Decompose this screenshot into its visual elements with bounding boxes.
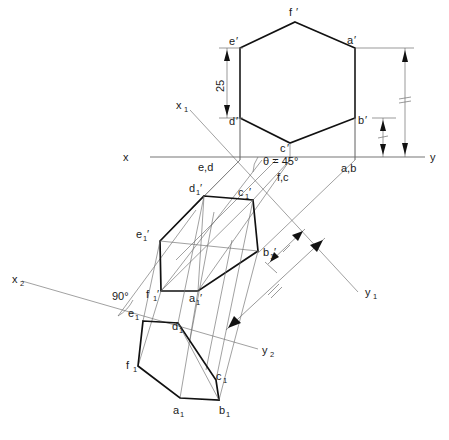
axis-x1-subscript: 1 [184,105,188,114]
axis-y-label: y [430,151,436,163]
svg-text:′: ′ [365,114,367,126]
theta-label: θ = 45° [263,155,298,167]
svg-text:b: b [219,404,225,416]
axis-y2-label: y [262,344,268,356]
svg-text:e: e [136,228,142,240]
vertex-label-a1-prime: a 1 ′ [189,292,202,307]
vertex-label-e-prime: e ′ [229,35,238,47]
right-angle-label: 90° [112,290,129,302]
front-view-projectors [240,48,355,160]
axis-x2-subscript: 2 [20,279,24,288]
svg-text:1: 1 [179,326,183,335]
svg-text:′: ′ [200,292,202,304]
svg-text:d: d [189,182,195,194]
inclined-hexagon-vertex-labels: d 1 ′ c 1 ′ b 1 ′ a 1 ′ f 1 ′ [136,182,276,307]
axis-x2-y2 [22,281,258,349]
svg-text:c: c [216,370,222,382]
axis-y2-subscript: 2 [270,350,274,359]
svg-text:c: c [238,186,244,198]
svg-text:b: b [358,114,364,126]
vertex-label-d1: d 1 [172,320,183,335]
vertex-label-d1-prime: d 1 ′ [189,182,202,197]
theta-angle-arc [253,157,258,172]
axis-y1-label: y [365,286,371,298]
svg-text:′: ′ [200,182,202,194]
vertex-label-d-prime: d ′ [229,115,238,127]
svg-text:f: f [289,6,293,18]
svg-text:′: ′ [249,186,251,198]
svg-text:1: 1 [226,410,230,419]
svg-text:b: b [263,246,269,258]
dimension-right-outer [356,48,414,157]
inclined-projectors [160,160,355,291]
front-view-vertex-labels: f ′ a ′ b ′ c ′ d ′ e ′ [229,6,367,154]
svg-text:′: ′ [296,6,298,18]
svg-text:a: a [347,34,354,46]
dimension-25-text: 25 [214,80,226,92]
svg-text:1: 1 [223,376,227,385]
svg-text:1: 1 [135,313,139,322]
svg-text:1: 1 [180,410,184,419]
dimension-25-value: 25 [214,80,226,92]
vertex-label-e1-prime: e 1 ′ [136,228,149,243]
vertex-label-b1: b 1 [219,404,230,419]
svg-text:f: f [126,359,130,371]
inclined-hexagon-construction [160,196,258,291]
vertex-label-c-prime: c ′ [280,142,289,154]
drawing-canvas: x y x 1 y 1 x 2 y 2 θ = 45° 90° 25 f ′ [0,0,449,440]
svg-text:′: ′ [287,142,289,154]
ground-label-ed: e,d [198,161,213,173]
svg-text:′: ′ [147,228,149,240]
top-view-vertex-labels: e 1 d 1 c 1 b 1 a 1 f 1 [126,307,230,419]
svg-text:a: a [173,404,180,416]
svg-text:d: d [229,115,235,127]
svg-text:1: 1 [133,365,137,374]
svg-text:′: ′ [236,115,238,127]
vertex-label-a1: a 1 [173,404,184,419]
vertex-label-f1: f 1 [126,359,137,374]
vertex-label-f1-prime: f 1 ′ [146,288,159,303]
svg-text:c: c [280,142,286,154]
axis-x1-label: x [176,99,182,111]
vertex-label-e1: e 1 [128,307,139,322]
vertex-label-b1-prime: b 1 ′ [263,246,276,261]
vertex-label-c1: c 1 [216,370,227,385]
axis-y1-subscript: 1 [373,292,377,301]
svg-text:d: d [172,320,178,332]
svg-text:′: ′ [354,34,356,46]
ground-label-fc: f,c [277,171,289,183]
vertex-label-b-prime: b ′ [358,114,367,126]
axis-x2-label: x [12,273,18,285]
dimension-right-inner [372,118,396,157]
front-view-hexagon-outline [240,22,355,143]
axis-x-label: x [123,151,129,163]
dimension-b1-offset [265,229,305,273]
vertex-label-f-prime: f ′ [289,6,298,18]
axis-x1-y1 [190,110,358,292]
svg-text:′: ′ [236,35,238,47]
ground-label-ab: a,b [341,162,356,174]
svg-text:′: ′ [274,246,276,258]
vertex-label-a-prime: a ′ [347,34,356,46]
svg-text:′: ′ [157,288,159,300]
svg-text:e: e [128,307,134,319]
engineering-drawing: x y x 1 y 1 x 2 y 2 θ = 45° 90° 25 f ′ [0,0,449,440]
svg-text:a: a [189,292,196,304]
svg-text:e: e [229,35,235,47]
